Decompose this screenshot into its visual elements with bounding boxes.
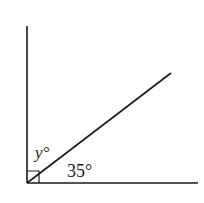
diagonal-ray	[27, 73, 171, 183]
angle-label-35: 35°	[67, 161, 92, 181]
angle-diagram: y° 35°	[0, 0, 204, 203]
angle-label-y: y°	[33, 143, 50, 162]
